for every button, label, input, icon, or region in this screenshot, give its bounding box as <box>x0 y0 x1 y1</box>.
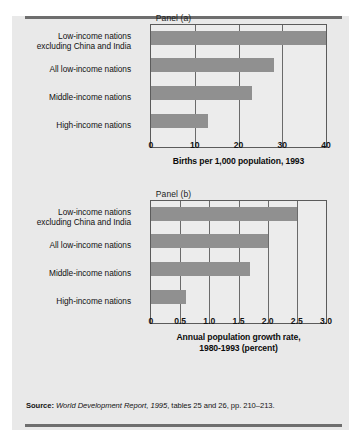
panel-a: Panel (a) Low-income nationsexcluding Ch… <box>0 12 337 148</box>
panel-b-x-axis: 00.51.01.52.02.53.0 <box>150 316 327 330</box>
panel-b-axis-title-line2: 1980-1993 (percent) <box>150 343 327 354</box>
panel-a-plot-area <box>150 24 327 148</box>
panel-b-title: Panel (b) <box>0 188 337 200</box>
panel-a-bar <box>151 31 326 45</box>
panel-a-category-label-line: High-income nations <box>0 121 131 131</box>
panel-a-chart: Low-income nationsexcluding China and In… <box>0 24 337 148</box>
panel-b-plot-area <box>150 200 327 324</box>
panel-a-x-axis: 010203040 <box>150 140 327 154</box>
panel-b-axis-title-line1: Annual population growth rate, <box>150 332 327 343</box>
panel-a-category-label-line: Middle-income nations <box>0 93 131 103</box>
panel-b-category-label: All low-income nations <box>0 241 131 251</box>
panel-a-tick-label: 20 <box>234 140 244 150</box>
panel-b-category-label: High-income nations <box>0 297 131 307</box>
panel-a-category-label: High-income nations <box>0 121 131 131</box>
panel-b-axis-title: Annual population growth rate, 1980-1993… <box>150 332 327 354</box>
panel-a-bar <box>151 58 274 72</box>
panel-a-category-label: Middle-income nations <box>0 93 131 103</box>
panel-b-tick-label: 0.5 <box>174 316 186 326</box>
panel-b-bar <box>151 290 186 304</box>
panel-a-tick-label: 30 <box>277 140 287 150</box>
panel-a-tick-label: 10 <box>190 140 200 150</box>
source-detail: , tables 25 and 26, pp. 210–213. <box>167 401 274 410</box>
panel-b-category-label-line: High-income nations <box>0 297 131 307</box>
panel-b-tick-label: 3.0 <box>320 316 332 326</box>
source-note: Source: World Development Report, 1995, … <box>26 401 336 411</box>
panel-a-bar <box>151 114 208 128</box>
panel-a-bar <box>151 86 252 100</box>
panel-b-tick-label: 1.5 <box>233 316 245 326</box>
panel-b-tick-label: 2.5 <box>291 316 303 326</box>
panel-b-bar <box>151 234 268 248</box>
panel-b-tick-label: 2.0 <box>262 316 274 326</box>
panel-b-chart: Low-income nationsexcluding China and In… <box>0 200 337 324</box>
panel-b-category-label-line: excluding China and India <box>0 218 131 228</box>
panel-a-tick-label: 40 <box>321 140 331 150</box>
panel-a-category-label: Low-income nationsexcluding China and In… <box>0 32 131 51</box>
panel-b-bar <box>151 262 250 276</box>
panel-b-bar <box>151 207 297 221</box>
panel-a-axis-title: Births per 1,000 population, 1993 <box>150 156 327 167</box>
panel-a-category-label: All low-income nations <box>0 65 131 75</box>
bottom-rule <box>25 424 342 427</box>
source-label: Source: <box>26 401 54 410</box>
panel-a-category-label-line: All low-income nations <box>0 65 131 75</box>
panel-b-category-label: Low-income nationsexcluding China and In… <box>0 208 131 227</box>
panel-b-category-label-line: Middle-income nations <box>0 269 131 279</box>
source-title: World Development Report, 1995 <box>56 401 167 410</box>
panel-a-axis-title-line: Births per 1,000 population, 1993 <box>150 156 327 167</box>
panel-b-category-label: Middle-income nations <box>0 269 131 279</box>
panel-b-tick-label: 1.0 <box>203 316 215 326</box>
panel-b-category-label-line: All low-income nations <box>0 241 131 251</box>
panel-a-title: Panel (a) <box>0 12 337 24</box>
panel-a-category-label-line: excluding China and India <box>0 42 131 52</box>
panel-b-tick-label: 0 <box>149 316 154 326</box>
panel-a-category-labels: Low-income nationsexcluding China and In… <box>0 24 135 148</box>
panel-b-category-labels: Low-income nationsexcluding China and In… <box>0 200 135 324</box>
panel-a-tick-label: 0 <box>149 140 154 150</box>
panel-b-gridline <box>297 201 298 323</box>
figure-container: Panel (a) Low-income nationsexcluding Ch… <box>0 0 361 445</box>
panel-b: Panel (b) Low-income nationsexcluding Ch… <box>0 188 337 324</box>
